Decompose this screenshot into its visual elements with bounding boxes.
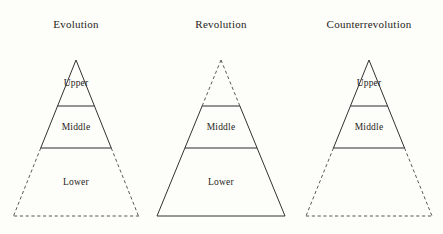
pyramid-revolution-middle-edge-right — [240, 106, 257, 148]
pyramid-revolution-lower-edge-left — [157, 148, 185, 216]
pyramid-counterrevolution-middle-edge-right — [388, 106, 405, 148]
tier-label-evolution-lower: Lower — [63, 177, 89, 187]
pyramid-panel-evolution: EvolutionUpperMiddleLower — [14, 18, 140, 216]
pyramid-evolution-middle-edge-right — [94, 106, 111, 148]
pyramid-revolution-upper-edge-left — [202, 60, 221, 106]
pyramid-evolution-lower-edge-left — [14, 148, 41, 216]
pyramid-counterrevolution-lower-edge-left — [306, 148, 333, 216]
pyramid-panel-revolution: RevolutionMiddleLower — [157, 18, 285, 216]
tier-label-counterrevolution-upper: Upper — [357, 78, 382, 88]
tier-label-revolution-middle: Middle — [207, 122, 236, 132]
pyramid-panel-counterrevolution: CounterrevolutionUpperMiddle — [306, 18, 432, 216]
tier-label-evolution-upper: Upper — [64, 78, 89, 88]
tier-label-counterrevolution-middle: Middle — [355, 122, 384, 132]
pyramid-evolution-lower-edge-right — [111, 148, 138, 216]
pyramid-revolution-upper-edge-right — [221, 60, 240, 106]
pyramid-revolution-middle-edge-left — [185, 106, 202, 148]
panel-title-counterrevolution: Counterrevolution — [327, 18, 412, 30]
tier-label-evolution-middle: Middle — [62, 122, 91, 132]
pyramid-counterrevolution-middle-edge-left — [333, 106, 350, 148]
pyramid-counterrevolution-lower-edge-right — [405, 148, 432, 216]
pyramid-evolution-middle-edge-left — [41, 106, 58, 148]
tier-label-revolution-lower: Lower — [208, 177, 234, 187]
stratification-pyramids-figure: EvolutionUpperMiddleLowerRevolutionMiddl… — [0, 0, 443, 234]
pyramid-revolution-lower-edge-right — [257, 148, 285, 216]
panel-title-evolution: Evolution — [53, 18, 99, 30]
panel-title-revolution: Revolution — [195, 18, 247, 30]
